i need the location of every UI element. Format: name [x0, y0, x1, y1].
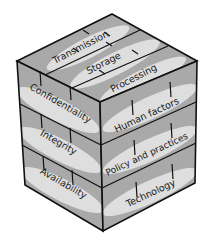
security-cube-diagram: Transmission Storage Processing Confiden… — [0, 0, 211, 252]
